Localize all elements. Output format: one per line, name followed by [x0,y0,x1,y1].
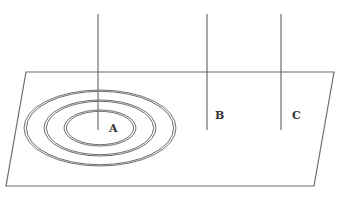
ring-3 [66,111,133,144]
ring-2 [44,100,156,156]
diagram-canvas: A B C [0,0,342,198]
line-labels: A B C [108,109,301,135]
ring-3 [64,110,136,146]
label-c: C [292,109,301,122]
label-a: A [108,122,118,135]
ring-1 [26,91,173,164]
ring-2 [46,101,153,154]
plane-parallelogram [6,72,334,186]
concentric-rings [24,90,176,166]
label-b: B [215,109,224,122]
